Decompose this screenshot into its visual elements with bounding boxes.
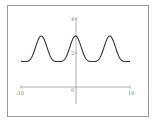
x-tick-label-max: 10	[128, 90, 134, 96]
x-tick-label-min: -10	[16, 90, 24, 96]
y-tick-label-4: 4	[71, 16, 74, 22]
chart-plot: -10 10 0 4 2	[0, 0, 157, 125]
y-tick-label-2: 2	[71, 50, 74, 56]
origin-label: 0	[71, 87, 74, 93]
data-series-line	[21, 36, 130, 62]
